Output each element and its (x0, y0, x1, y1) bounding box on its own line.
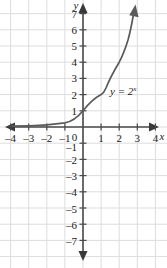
y-axis-down-arrow (79, 251, 88, 261)
x-tick-label-neg3: –3 (22, 132, 35, 144)
y-tick-label-3: 3 (72, 72, 78, 84)
svg-text:y = 2x: y = 2x (109, 85, 137, 97)
x-axis-right-arrow (149, 123, 159, 132)
coordinate-plane: –4 –3 –2 –1 0 1 2 3 4 7 6 5 4 3 2 1 –1 –… (0, 0, 167, 268)
y-axis-up-arrow (79, 3, 88, 13)
x-axis (5, 123, 159, 132)
graph-figure: –4 –3 –2 –1 0 1 2 3 4 7 6 5 4 3 2 1 –1 –… (0, 0, 167, 268)
y-tick-label-neg7: –7 (65, 235, 78, 247)
y-tick-label-4: 4 (72, 56, 78, 68)
x-tick-label-neg4: –4 (4, 132, 17, 144)
y-tick-label-neg1: –1 (65, 141, 77, 153)
y-tick-label-1: 1 (72, 105, 78, 117)
x-tick-label-3: 3 (135, 132, 141, 144)
y-tick-label-6: 6 (72, 24, 78, 36)
function-label-exponent: x (132, 85, 137, 93)
y-tick-label-neg2: –2 (65, 154, 77, 166)
x-tick-label-1: 1 (98, 132, 104, 144)
y-tick-label-neg3: –3 (65, 170, 78, 182)
y-tick-label-5: 5 (72, 40, 78, 52)
function-label: y = 2x (109, 85, 137, 97)
function-label-base: y = 2 (109, 85, 134, 97)
x-tick-label-2: 2 (116, 132, 122, 144)
y-tick-label-neg5: –5 (65, 203, 78, 215)
x-tick-label-4: 4 (153, 132, 159, 144)
y-tick-label-2: 2 (72, 89, 78, 101)
y-axis (79, 3, 88, 261)
y-tick-label-neg6: –6 (65, 219, 78, 231)
y-tick-label-neg4: –4 (65, 186, 78, 198)
x-tick-label-neg2: –2 (40, 132, 52, 144)
y-axis-label: y (73, 0, 79, 11)
x-axis-label: x (159, 130, 165, 142)
